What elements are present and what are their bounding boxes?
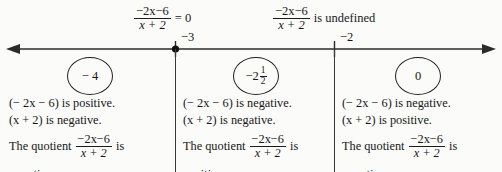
region-conclusion: negative. [342, 166, 497, 172]
region-conclusion: positive. [183, 166, 330, 172]
test-value-right: 0 [415, 69, 421, 84]
region-conclusion: negative. [9, 166, 169, 172]
fraction-numerator: −2x−6 [134, 5, 171, 19]
fraction-expression-zero: −2x−6 x + 2 [134, 5, 171, 33]
quotient-fraction: −2x−6 x + 2 [76, 133, 112, 160]
region-line-numerator-sign: (− 2x − 6) is negative. [342, 95, 497, 112]
mixed-number-whole: −2 [245, 69, 258, 84]
region-analysis-left: (− 2x − 6) is positive. (x + 2) is negat… [9, 95, 169, 172]
region-analysis-middle: (− 2x − 6) is negative. (x + 2) is negat… [183, 95, 330, 172]
fraction-numerator: 1 [260, 66, 267, 77]
condition-label-zero: −2x−6 x + 2 = 0 [133, 5, 191, 33]
region-line-quotient: The quotient −2x−6 x + 2 is [342, 133, 497, 160]
fraction-denominator: x + 2 [409, 147, 445, 160]
condition-label-undefined: −2x−6 x + 2 is undefined [272, 5, 375, 33]
region-analysis-right: (− 2x − 6) is negative. (x + 2) is posit… [342, 95, 497, 172]
fraction-denominator: x + 2 [76, 147, 112, 160]
fraction-numerator: −2x−6 [250, 133, 286, 147]
fraction-denominator: x + 2 [134, 19, 171, 32]
region-line-numerator-sign: (− 2x − 6) is negative. [183, 95, 330, 112]
region-divider-right [334, 49, 335, 172]
region-line-quotient: The quotient −2x−6 x + 2 is [183, 133, 330, 160]
quotient-suffix: is [290, 139, 298, 153]
region-line-denominator-sign: (x + 2) is negative. [9, 112, 169, 129]
quotient-suffix: is [116, 139, 124, 153]
region-divider-left [175, 49, 176, 172]
test-value-middle: −2 1 2 [245, 66, 266, 87]
fraction-numerator: −2x−6 [273, 5, 310, 19]
region-line-quotient: The quotient −2x−6 x + 2 is [9, 133, 169, 160]
quotient-prefix: The quotient [9, 139, 72, 153]
region-line-denominator-sign: (x + 2) is positive. [342, 112, 497, 129]
fraction-denominator: 2 [260, 77, 267, 87]
test-value-bubble-middle: −2 1 2 [233, 57, 279, 95]
fraction-denominator: x + 2 [273, 19, 310, 32]
fraction-numerator: −2x−6 [409, 133, 445, 147]
fraction-denominator: x + 2 [250, 147, 286, 160]
test-value-bubble-right: 0 [395, 57, 441, 95]
quotient-fraction: −2x−6 x + 2 [250, 133, 286, 160]
fraction-numerator: −2x−6 [76, 133, 112, 147]
sign-chart-figure: −2x−6 x + 2 = 0 −2x−6 x + 2 is undefined… [0, 0, 502, 172]
region-line-numerator-sign: (− 2x − 6) is positive. [9, 95, 169, 112]
tick-label-neg-3: −3 [181, 30, 194, 45]
number-line-axis [0, 41, 502, 57]
test-value-bubble-left: − 4 [67, 57, 113, 95]
test-value-left: − 4 [82, 69, 98, 84]
mixed-number-fraction: 1 2 [260, 66, 267, 87]
quotient-fraction: −2x−6 x + 2 [409, 133, 445, 160]
fraction-expression-undefined: −2x−6 x + 2 [273, 5, 310, 33]
quotient-prefix: The quotient [342, 139, 405, 153]
condition-tail-undefined: is undefined [314, 11, 375, 25]
tick-label-neg-2: −2 [340, 30, 353, 45]
quotient-suffix: is [449, 139, 457, 153]
region-line-denominator-sign: (x + 2) is negative. [183, 112, 330, 129]
condition-tail-zero: = 0 [175, 11, 191, 25]
quotient-prefix: The quotient [183, 139, 246, 153]
